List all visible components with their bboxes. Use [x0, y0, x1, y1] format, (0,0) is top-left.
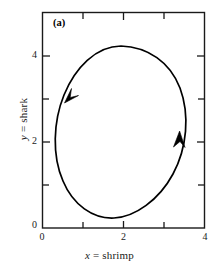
x-axis-label-name: shrimp: [102, 249, 134, 261]
x-axis-label-equals: =: [90, 249, 102, 261]
x-axis-label: x = shrimp: [0, 249, 219, 261]
x-tick-label-0: 0: [34, 231, 50, 242]
y-tick-label-0: 0: [21, 219, 37, 230]
y-axis-ticks: [43, 56, 51, 185]
plot-frame: [43, 13, 205, 229]
figure-panel-a: (a) 0 2 4 0 2 4 x = shrimp y = shark: [0, 0, 219, 271]
x-axis-ticks: [83, 221, 164, 228]
y-axis-label-variable: y: [17, 135, 29, 140]
x-tick-label-2: 2: [116, 231, 132, 242]
orbit-curve: [55, 46, 186, 218]
y-axis-label-equals: =: [17, 123, 29, 135]
y-axis-label: y = shark: [17, 54, 29, 184]
arrow-right-ascending-icon: [174, 131, 186, 148]
panel-label: (a): [53, 17, 65, 28]
right-axis-ticks: [197, 56, 205, 185]
y-axis-label-name: shark: [17, 98, 29, 123]
x-tick-label-4: 4: [197, 231, 213, 242]
top-axis-ticks: [83, 13, 164, 21]
